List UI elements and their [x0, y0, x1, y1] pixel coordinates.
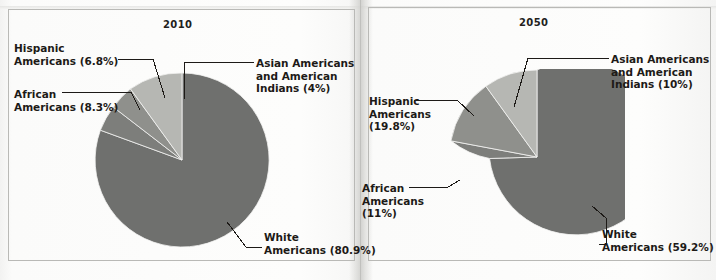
scan-vignette — [0, 0, 716, 280]
figure-page: 2010 2050 — [0, 0, 716, 280]
